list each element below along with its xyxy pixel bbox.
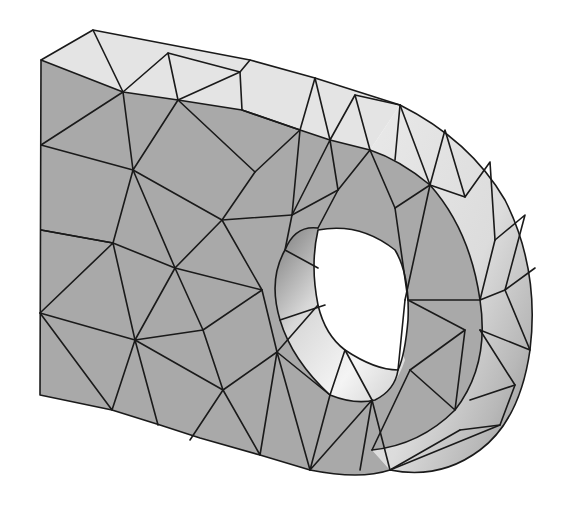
fem-mesh-render (0, 0, 569, 526)
